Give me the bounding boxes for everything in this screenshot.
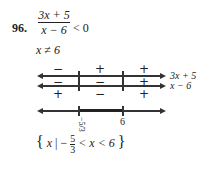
sign: + (94, 64, 106, 74)
problem-number: 96. (12, 21, 27, 36)
point-label-neg-five-thirds: −5/3 (77, 117, 86, 132)
arrow-right-icon (160, 83, 166, 89)
sign: + (138, 77, 150, 87)
row-label: x − 6 (170, 80, 191, 91)
fraction: 5 3 (70, 134, 75, 155)
relation: < 0 (73, 21, 89, 36)
inequality-rest: < x < 6 (78, 136, 115, 150)
minus: − (60, 136, 67, 150)
point-label-six: 6 (120, 116, 125, 127)
sign: − (52, 77, 64, 87)
arrow-right-icon (160, 108, 166, 114)
brace-open: { (36, 133, 44, 150)
tick-mark (78, 106, 80, 116)
restriction: x ≠ 6 (36, 43, 60, 58)
such-that-bar: | (55, 136, 57, 150)
inequality-fraction: 3x + 5 x − 6 (38, 8, 70, 38)
variable: x (47, 136, 52, 150)
tick-mark (122, 81, 124, 91)
tick-mark (122, 106, 124, 116)
sign: + (138, 89, 150, 99)
denominator: x − 6 (38, 23, 70, 38)
solution-interval (79, 109, 123, 112)
numerator: 3x + 5 (38, 8, 70, 23)
tick-mark (78, 71, 80, 81)
sign: + (138, 64, 150, 74)
sign: − (52, 64, 64, 74)
sign: − (94, 77, 106, 87)
sign: + (52, 89, 64, 99)
solution-set: { x | − 5 3 < x < 6 } (36, 133, 125, 155)
tick-mark (78, 81, 80, 91)
tick-mark (122, 71, 124, 81)
brace-close: } (118, 133, 126, 150)
sign: − (94, 89, 106, 99)
arrow-right-icon (160, 73, 166, 79)
